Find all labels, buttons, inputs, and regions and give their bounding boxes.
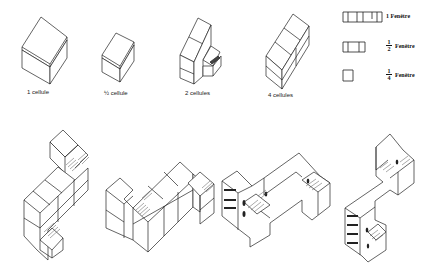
half-cell-drawing	[102, 33, 134, 82]
fraction-numerator: 1	[388, 68, 391, 74]
label-one-cell: 1 cellule	[27, 89, 49, 95]
two-cells-drawing	[180, 18, 221, 84]
legend-half-fraction: 1 2	[385, 39, 393, 52]
legend-whole-number: 1	[386, 13, 389, 19]
fraction-denominator: 2	[388, 46, 391, 52]
assembly-rendered-l	[345, 134, 414, 262]
assembly-z-stairs	[106, 162, 214, 252]
label-half-cell: ½ cellule	[104, 90, 128, 96]
fraction-numerator: 1	[388, 39, 391, 45]
label-four-cells: 4 cellules	[268, 92, 293, 98]
four-cells-drawing	[266, 14, 309, 89]
architecture-diagram: 1 cellule ½ cellule 2 cellules 4 cellule…	[0, 0, 438, 277]
legend-half-text: Fenêtre	[395, 43, 415, 49]
legend-whole-text: Fenêtre	[391, 13, 411, 19]
assembly-l-stairs	[24, 130, 89, 260]
legend-whole-window: 1 Fenêtre	[386, 13, 410, 19]
one-cell-drawing	[22, 17, 67, 84]
legend-quarter-text: Fenêtre	[395, 72, 415, 78]
fraction-denominator: 4	[388, 75, 391, 81]
label-two-cells: 2 cellules	[185, 90, 210, 96]
isometric-drawings	[0, 0, 438, 277]
legend-quarter-fraction: 1 4	[385, 68, 393, 81]
assembly-rendered-u	[222, 153, 330, 247]
legend-symbols	[343, 12, 382, 81]
